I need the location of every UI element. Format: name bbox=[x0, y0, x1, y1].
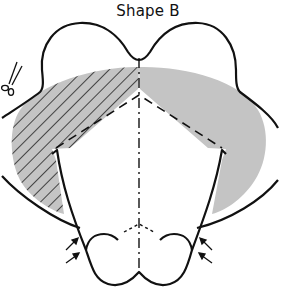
bottom-lobes bbox=[86, 234, 118, 250]
hatched-region bbox=[12, 67, 139, 214]
pattern-diagram bbox=[0, 0, 282, 292]
scissors-icon bbox=[2, 62, 22, 95]
solid-gray-region bbox=[139, 67, 266, 214]
